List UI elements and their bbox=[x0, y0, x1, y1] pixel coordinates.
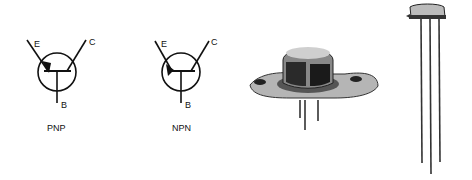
figure-graphics bbox=[0, 0, 472, 180]
npn-caption: NPN bbox=[172, 123, 191, 133]
pnp-caption: PNP bbox=[47, 123, 66, 133]
small-transistor-photo bbox=[406, 4, 446, 174]
emitter-arrow-icon bbox=[166, 64, 174, 76]
pnp-collector-label: C bbox=[89, 37, 96, 47]
pnp-symbol bbox=[27, 40, 86, 103]
pnp-base-label: B bbox=[61, 100, 67, 110]
npn-emitter-label: E bbox=[161, 39, 167, 49]
npn-symbol bbox=[155, 41, 209, 103]
figure: E C B PNP E C B NPN bbox=[0, 0, 472, 180]
npn-collector-label: C bbox=[211, 37, 218, 47]
pnp-emitter-label: E bbox=[34, 39, 40, 49]
power-transistor-photo bbox=[250, 47, 378, 130]
npn-base-label: B bbox=[185, 100, 191, 110]
